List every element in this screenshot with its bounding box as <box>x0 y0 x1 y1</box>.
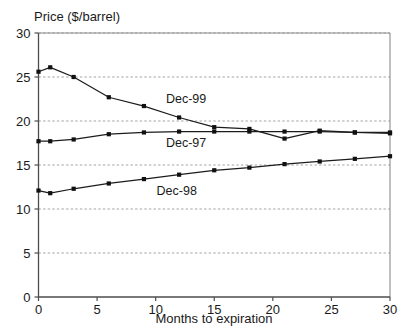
series-label-dec-99: Dec-99 <box>166 92 206 106</box>
y-tick-label-20: 20 <box>16 114 30 129</box>
data-point <box>72 137 76 141</box>
data-point <box>247 166 251 170</box>
series-dec-99 <box>36 65 392 140</box>
series-label-dec-98: Dec-98 <box>157 184 197 198</box>
data-point <box>107 132 111 136</box>
data-point <box>48 65 52 69</box>
data-point <box>282 129 286 133</box>
y-tick-label-5: 5 <box>23 246 30 261</box>
y-tick-labels: 051015202530 <box>16 26 30 305</box>
y-tick-label-30: 30 <box>16 26 30 41</box>
y-tick-label-10: 10 <box>16 202 30 217</box>
x-tick-label-25: 25 <box>324 302 338 317</box>
data-point <box>353 130 357 134</box>
x-tick-label-5: 5 <box>93 302 100 317</box>
data-point <box>177 129 181 133</box>
data-point <box>212 168 216 172</box>
series-dec-98 <box>36 154 392 195</box>
data-point <box>36 139 40 143</box>
y-tick-label-0: 0 <box>23 290 30 305</box>
data-point <box>36 188 40 192</box>
price-line-chart: 051015202530 051015202530 Dec-99Dec-97De… <box>0 0 408 329</box>
data-point <box>142 104 146 108</box>
data-point <box>247 129 251 133</box>
x-axis-title: Months to expiration <box>155 311 272 326</box>
x-tick-label-30: 30 <box>383 302 397 317</box>
data-point <box>72 75 76 79</box>
data-point <box>72 187 76 191</box>
data-point <box>388 154 392 158</box>
series-line-dec-98 <box>39 156 391 193</box>
y-tick-label-15: 15 <box>16 158 30 173</box>
chart-canvas: 051015202530 051015202530 Dec-99Dec-97De… <box>0 0 408 329</box>
data-point <box>282 137 286 141</box>
data-point <box>212 129 216 133</box>
data-series-group <box>36 65 392 195</box>
data-point <box>36 70 40 74</box>
data-point <box>318 159 322 163</box>
data-point <box>177 173 181 177</box>
series-label-dec-97: Dec-97 <box>166 136 206 150</box>
data-point <box>177 115 181 119</box>
data-point <box>353 157 357 161</box>
series-dec-97 <box>36 129 392 143</box>
data-point <box>48 191 52 195</box>
axes <box>35 33 391 301</box>
x-tick-label-0: 0 <box>35 302 42 317</box>
data-point <box>318 129 322 133</box>
y-axis-title: Price ($/barrel) <box>34 9 120 24</box>
data-point <box>212 125 216 129</box>
grid-lines <box>39 33 391 253</box>
data-point <box>142 177 146 181</box>
data-point <box>107 95 111 99</box>
data-point <box>107 181 111 185</box>
data-point <box>48 139 52 143</box>
data-point <box>142 130 146 134</box>
series-annotations: Dec-99Dec-97Dec-98 <box>157 92 207 198</box>
data-point <box>282 162 286 166</box>
y-tick-label-25: 25 <box>16 70 30 85</box>
data-point <box>388 130 392 134</box>
